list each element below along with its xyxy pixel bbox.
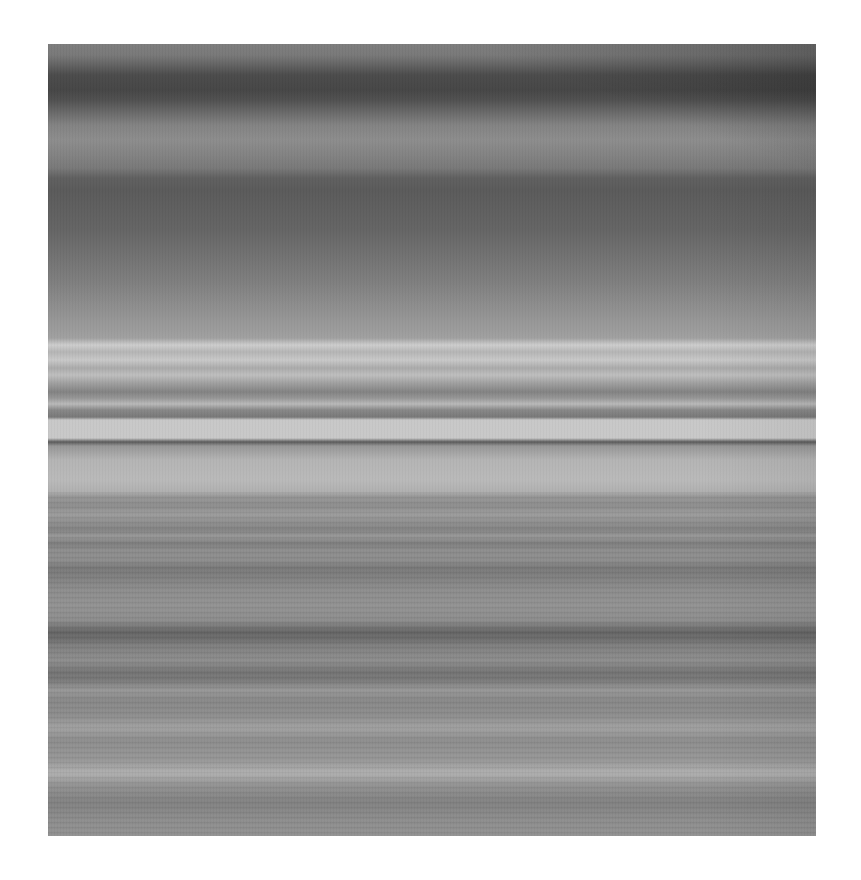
banded-photo	[48, 44, 816, 836]
horizontal-bands	[48, 44, 816, 836]
